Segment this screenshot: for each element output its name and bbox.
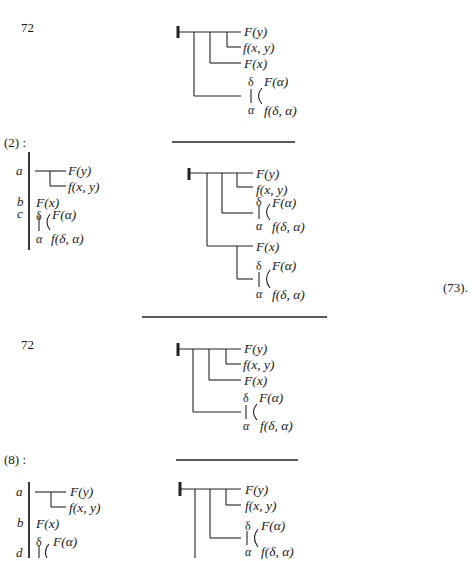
- equation-number: (73).: [443, 280, 468, 296]
- generality-upper: δ: [36, 536, 42, 548]
- formula-term: F(α): [261, 519, 285, 533]
- formula-condition: F(x): [244, 57, 267, 71]
- generality-upper: δ: [36, 210, 42, 222]
- formula-consequent: F(y): [244, 25, 267, 39]
- premise-letter: b: [17, 515, 24, 531]
- formula-condition: f(x, y): [243, 358, 274, 372]
- formula-term: f(δ, α): [272, 288, 305, 302]
- generality-upper: δ: [256, 196, 262, 208]
- premise-formula: f(δ, α): [51, 232, 84, 246]
- premise-formula: F(y): [70, 485, 93, 499]
- formula-term: f(δ, α): [272, 220, 305, 234]
- formula-condition: F(x): [256, 240, 279, 254]
- premise-formula: f(x, y): [68, 180, 99, 194]
- reference-label: 72: [21, 20, 34, 36]
- formula-term: f(δ, α): [261, 545, 294, 559]
- formula-term: f(δ, α): [264, 104, 297, 118]
- reference-label: (2) :: [4, 135, 26, 151]
- formula-term: F(α): [272, 196, 296, 210]
- formula-consequent: F(y): [245, 483, 268, 497]
- formula-consequent: F(y): [256, 167, 279, 181]
- generality-lower: α: [243, 420, 249, 432]
- formula-condition: f(x, y): [245, 499, 276, 513]
- generality-lower: α: [256, 220, 262, 232]
- generality-upper: δ: [256, 260, 262, 272]
- premise-formula: f(x, y): [69, 501, 100, 515]
- premise-letter: c: [17, 206, 23, 222]
- generality-lower: α: [36, 233, 42, 245]
- premise-formula: F(y): [68, 164, 91, 178]
- premise-formula: F(x): [36, 517, 59, 531]
- formula-condition: F(x): [244, 374, 267, 388]
- formula-term: F(α): [259, 391, 283, 405]
- generality-lower: α: [248, 104, 254, 116]
- premise-formula: F(α): [53, 535, 77, 549]
- generality-lower: α: [245, 546, 251, 558]
- formula-term: F(α): [272, 259, 296, 273]
- generality-upper: δ: [243, 392, 249, 404]
- generality-upper: δ: [248, 76, 254, 88]
- premise-letter: d: [16, 545, 23, 561]
- formula-consequent: F(y): [244, 342, 267, 356]
- generality-lower: α: [256, 288, 262, 300]
- formula-term: f(δ, α): [260, 419, 293, 433]
- generality-upper: δ: [245, 520, 251, 532]
- formula-condition: f(x, y): [243, 41, 274, 55]
- reference-label: (8) :: [4, 452, 26, 468]
- reference-label: 72: [21, 337, 34, 353]
- premise-letter: a: [16, 163, 23, 179]
- formula-term: F(α): [264, 75, 288, 89]
- premise-letter: a: [16, 484, 23, 500]
- premise-formula: F(α): [52, 208, 76, 222]
